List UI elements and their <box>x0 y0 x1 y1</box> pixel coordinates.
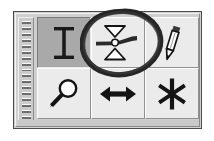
threshold-level-icon <box>96 24 140 62</box>
grip-dash <box>22 104 31 107</box>
grip-dash <box>22 80 31 83</box>
tool-palette-window <box>13 11 202 129</box>
i-beam-text-icon <box>49 25 79 61</box>
grip-dash <box>22 110 31 113</box>
grip-dash <box>22 63 31 66</box>
magnifier-icon <box>47 77 81 111</box>
grip-dash <box>22 86 31 89</box>
grip-dash <box>22 39 31 42</box>
tool-palette-footer <box>18 120 199 126</box>
tool-button-text[interactable] <box>37 17 91 68</box>
grip-dash <box>22 74 31 77</box>
tool-button-snap[interactable] <box>145 68 199 119</box>
tool-palette-inner-frame <box>15 13 200 127</box>
scan-canvas <box>0 0 214 141</box>
grip-dash <box>22 27 31 30</box>
double-arrow-horizontal-icon <box>99 83 137 105</box>
tool-button-zoom[interactable] <box>37 68 91 119</box>
grip-dash <box>22 51 31 54</box>
drag-grip[interactable] <box>18 17 34 123</box>
tool-button-measure[interactable] <box>91 68 145 119</box>
grip-dash <box>22 92 31 95</box>
grip-dash <box>22 33 31 36</box>
grip-dash <box>22 69 31 72</box>
tool-button-pencil[interactable] <box>145 17 199 68</box>
pencil-icon <box>159 24 185 62</box>
grip-dash <box>22 45 31 48</box>
grip-dash <box>22 116 31 119</box>
grip-dash <box>22 57 31 60</box>
grip-dash <box>22 21 31 24</box>
asterisk-star-icon <box>156 77 188 111</box>
tool-button-threshold[interactable] <box>91 17 145 68</box>
grip-dash <box>22 98 31 101</box>
tool-button-grid <box>37 17 199 119</box>
